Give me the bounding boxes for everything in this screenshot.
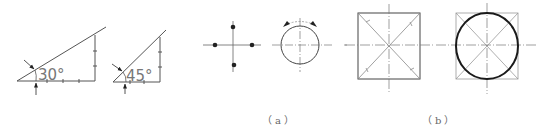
caption-a: （a） [262, 112, 297, 127]
four-point-cross [203, 21, 261, 72]
triangle-30-degree: 30° [17, 27, 106, 95]
angle-label-45: 45° [126, 67, 153, 85]
circle-inscribed-in-square [436, 3, 538, 94]
point-marker [250, 43, 255, 48]
rotation-arrow-icon [283, 21, 290, 27]
angle-arrow-icon [24, 60, 34, 69]
angle-arrow-icon [112, 64, 122, 71]
point-marker [213, 43, 218, 48]
caption-b: （b） [422, 112, 457, 127]
circle-with-rotation-arrows [272, 18, 347, 72]
point-marker [231, 25, 236, 30]
triangle-45-degree: 45° [112, 30, 166, 94]
technical-drawing-canvas: 30° 45° [0, 0, 542, 130]
angle-label-30: 30° [38, 66, 65, 84]
point-marker [232, 63, 237, 68]
rotation-arrow-icon [310, 21, 317, 27]
square-with-diagonals [345, 4, 433, 94]
